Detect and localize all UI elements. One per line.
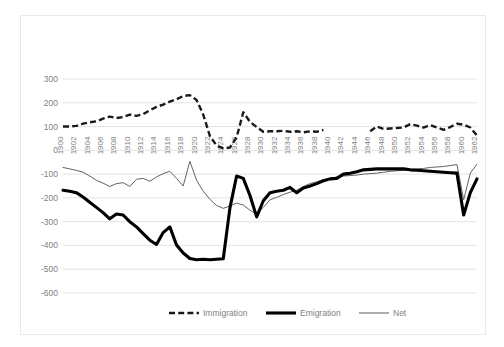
y-axis-tick-label: -500 — [41, 264, 58, 274]
x-axis-tick-label: 1942 — [336, 136, 345, 154]
x-axis-tick-label: 1904 — [83, 136, 92, 154]
y-axis-tick-label: -400 — [41, 240, 58, 250]
y-axis-tick-labels: 3002001000-100-200-300-400-500-600 — [41, 74, 58, 298]
x-axis-tick-label: 1944 — [350, 136, 359, 154]
x-axis-tick-label: 1950 — [390, 136, 399, 154]
chart-legend: ImmigrationEmigrationNet — [169, 308, 407, 318]
y-axis-tick-label: 100 — [44, 122, 58, 132]
line-chart: 3002001000-100-200-300-400-500-600 19001… — [21, 16, 485, 334]
x-axis-tick-label: 1956 — [430, 136, 439, 154]
y-axis-tick-label: -200 — [41, 193, 58, 203]
x-axis-tick-label: 1960 — [457, 136, 466, 154]
x-axis-tick-label: 1902 — [69, 136, 78, 154]
x-axis-tick-label: 1962 — [470, 136, 479, 154]
y-axis-tick-label: 200 — [44, 98, 58, 108]
x-axis-tick-label: 1908 — [109, 136, 118, 154]
x-axis-tick-label: 1900 — [56, 136, 65, 154]
series-layer — [63, 95, 477, 260]
y-axis-tick-label: -300 — [41, 217, 58, 227]
x-axis-tick-label: 1928 — [243, 136, 252, 154]
y-axis-tick-label: -600 — [41, 288, 58, 298]
x-axis-tick-label: 1948 — [377, 136, 386, 154]
x-axis-tick-label: 1906 — [96, 136, 105, 154]
x-axis-tick-label: 1918 — [176, 136, 185, 154]
chart-card: 3002001000-100-200-300-400-500-600 19001… — [20, 15, 486, 335]
x-axis-tick-label: 1954 — [417, 136, 426, 154]
x-axis-tick-label: 1912 — [136, 136, 145, 154]
x-axis-tick-label: 1920 — [190, 136, 199, 154]
x-axis-tick-label: 1938 — [310, 136, 319, 154]
x-axis-tick-label: 1930 — [256, 136, 265, 154]
x-axis-tick-labels: 1900190219041906190819101912191419161918… — [56, 136, 479, 154]
series-line-emigration — [63, 169, 477, 260]
x-axis-tick-label: 1952 — [403, 136, 412, 154]
y-axis-tick-label: -100 — [41, 169, 58, 179]
x-axis-tick-label: 1910 — [123, 136, 132, 154]
x-axis-tick-label: 1932 — [270, 136, 279, 154]
x-axis-tick-label: 1914 — [149, 136, 158, 154]
x-axis-tick-label: 1924 — [216, 136, 225, 154]
legend-label-net: Net — [393, 308, 407, 318]
x-axis-tick-label: 1946 — [363, 136, 372, 154]
legend-label-emigration: Emigration — [300, 308, 341, 318]
x-axis-tick-label: 1922 — [203, 136, 212, 154]
x-axis-tick-label: 1958 — [443, 136, 452, 154]
y-axis-tick-label: 300 — [44, 74, 58, 84]
x-axis-tick-label: 1934 — [283, 136, 292, 154]
x-axis-tick-label: 1940 — [323, 136, 332, 154]
legend-label-immigration: Immigration — [203, 308, 248, 318]
x-axis-tick-label: 1916 — [163, 136, 172, 154]
gridlines — [63, 79, 477, 293]
x-axis-tick-label: 1936 — [296, 136, 305, 154]
